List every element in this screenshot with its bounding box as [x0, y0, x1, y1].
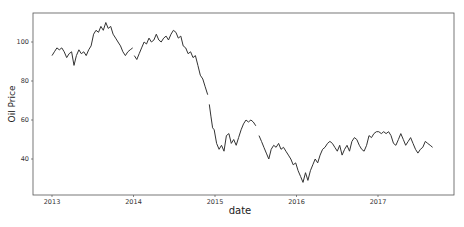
- x-tick-label: 2015: [207, 198, 224, 206]
- x-tick-label: 2016: [288, 198, 305, 206]
- y-tick-label: 80: [21, 77, 29, 85]
- y-axis-ticks: 406080100: [17, 38, 33, 163]
- x-axis-label: date: [229, 205, 252, 216]
- x-tick-label: 2013: [44, 198, 61, 206]
- y-axis-label: Oil Price: [7, 85, 17, 122]
- y-tick-label: 60: [21, 116, 29, 124]
- plot-frame: [33, 13, 454, 195]
- y-tick-label: 100: [17, 38, 29, 46]
- x-tick-label: 2017: [370, 198, 387, 206]
- x-tick-label: 2014: [125, 198, 142, 206]
- y-tick-label: 40: [21, 155, 29, 163]
- oil-price-chart: 406080100 20132014201520162017 date Oil …: [0, 0, 464, 227]
- x-axis-ticks: 20132014201520162017: [44, 195, 387, 206]
